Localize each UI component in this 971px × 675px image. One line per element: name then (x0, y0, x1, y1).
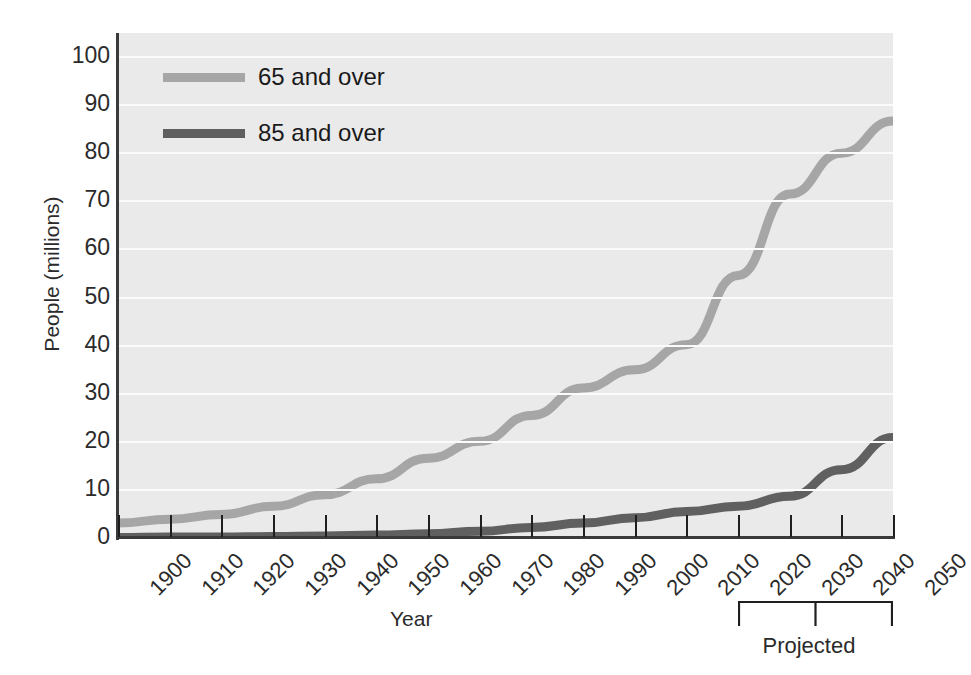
gridline (118, 248, 893, 250)
x-tick-label: 2050 (919, 548, 971, 601)
y-tick-label: 30 (38, 381, 110, 404)
x-tick (170, 515, 172, 537)
x-tick-label: 1970 (506, 548, 559, 601)
x-tick (325, 515, 327, 537)
y-tick-label: 20 (38, 429, 110, 452)
gridline (118, 441, 893, 443)
y-tick-label: 50 (38, 285, 110, 308)
x-tick-label: 1930 (299, 548, 352, 601)
x-tick (273, 515, 275, 537)
x-tick-label: 1940 (351, 548, 404, 601)
gridline (118, 56, 893, 58)
series-line (118, 438, 893, 538)
y-tick-label: 90 (38, 92, 110, 115)
x-tick (738, 515, 740, 537)
y-tick-label: 100 (38, 44, 110, 67)
legend-item: 85 and over (163, 116, 385, 150)
y-tick-label: 40 (38, 333, 110, 356)
x-tick (583, 515, 585, 537)
x-tick-label: 1900 (144, 548, 197, 601)
x-tick-label: 2030 (816, 548, 869, 601)
legend-item: 65 and over (163, 60, 385, 94)
projected-bracket-icon (738, 598, 893, 628)
x-tick-label: 1980 (558, 548, 611, 601)
gridline (118, 345, 893, 347)
y-tick-label: 70 (38, 188, 110, 211)
x-tick-label: 1920 (248, 548, 301, 601)
y-tick-label: 10 (38, 477, 110, 500)
gridline (118, 393, 893, 395)
x-tick-label: 1960 (454, 548, 507, 601)
x-tick (790, 515, 792, 537)
x-tick (376, 515, 378, 537)
y-tick-label: 0 (38, 525, 110, 548)
x-tick-label: 1990 (609, 548, 662, 601)
legend-label: 65 and over (258, 63, 385, 91)
projected-label: Projected (763, 633, 856, 659)
x-tick (635, 515, 637, 537)
y-tick-label: 60 (38, 236, 110, 259)
series-line (118, 121, 893, 523)
x-tick (893, 515, 895, 537)
x-axis-title: Year (390, 607, 432, 631)
x-tick-label: 2000 (661, 548, 714, 601)
y-axis-line (116, 33, 119, 540)
x-tick-label: 2010 (713, 548, 766, 601)
gridline (118, 297, 893, 299)
x-tick (841, 515, 843, 537)
x-tick (480, 515, 482, 537)
x-tick (686, 515, 688, 537)
gridline (118, 489, 893, 491)
legend-label: 85 and over (258, 119, 385, 147)
x-tick-label: 2020 (764, 548, 817, 601)
x-axis-line (116, 536, 895, 539)
gridline (118, 200, 893, 202)
x-tick-label: 1910 (196, 548, 249, 601)
chart-legend: 65 and over85 and over (163, 60, 385, 172)
x-tick-label: 1950 (403, 548, 456, 601)
y-axis-tick-labels: 0102030405060708090100 (30, 0, 110, 675)
x-tick-label: 2040 (868, 548, 921, 601)
x-tick (428, 515, 430, 537)
legend-swatch (163, 73, 245, 82)
x-tick (221, 515, 223, 537)
legend-swatch (163, 129, 245, 138)
x-tick (118, 515, 120, 537)
x-tick (531, 515, 533, 537)
y-tick-label: 80 (38, 140, 110, 163)
